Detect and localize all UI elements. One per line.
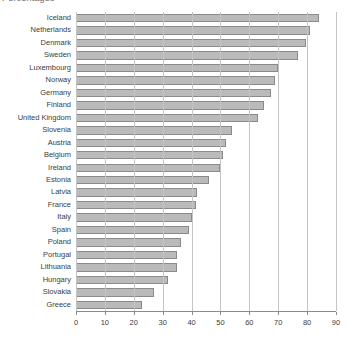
- category-label-denmark: Denmark: [0, 37, 71, 49]
- category-label-luxembourg: Luxembourg: [0, 62, 71, 74]
- category-label-germany: Germany: [0, 87, 71, 99]
- gridline-20: [134, 12, 135, 311]
- category-label-france: France: [0, 199, 71, 211]
- category-label-greece: Greece: [0, 299, 71, 311]
- category-label-norway: Norway: [0, 74, 71, 86]
- category-label-austria: Austria: [0, 137, 71, 149]
- gridline-30: [163, 12, 164, 311]
- bar-united-kingdom: [76, 114, 258, 122]
- x-tick-60: [249, 312, 250, 315]
- x-tick-30: [163, 312, 164, 315]
- gridline-50: [220, 12, 221, 311]
- bar-sweden: [76, 51, 298, 59]
- x-tick-0: [76, 312, 77, 315]
- category-label-lithuania: Lithuania: [0, 261, 71, 273]
- x-tick-label-30: 30: [153, 318, 173, 327]
- gridline-90: [336, 12, 337, 311]
- x-tick-label-10: 10: [95, 318, 115, 327]
- bar-netherlands: [76, 26, 310, 34]
- bar-hungary: [76, 276, 168, 284]
- gridline-70: [278, 12, 279, 311]
- category-label-estonia: Estonia: [0, 174, 71, 186]
- bar-austria: [76, 139, 226, 147]
- category-label-hungary: Hungary: [0, 274, 71, 286]
- chart-subtitle-clipped: Percentages: [2, 0, 55, 3]
- gridline-60: [249, 12, 250, 311]
- gridline-10: [105, 12, 106, 311]
- gridline-0: [76, 12, 77, 311]
- x-tick-90: [336, 312, 337, 315]
- category-label-portugal: Portugal: [0, 249, 71, 261]
- x-axis-line: [76, 311, 336, 312]
- category-label-netherlands: Netherlands: [0, 24, 71, 36]
- bar-slovakia: [76, 288, 154, 296]
- x-tick-label-20: 20: [124, 318, 144, 327]
- category-label-sweden: Sweden: [0, 49, 71, 61]
- bar-latvia: [76, 188, 197, 196]
- category-label-spain: Spain: [0, 224, 71, 236]
- bar-france: [76, 201, 196, 209]
- bar-ireland: [76, 164, 220, 172]
- category-label-ireland: Ireland: [0, 162, 71, 174]
- category-label-slovenia: Slovenia: [0, 124, 71, 136]
- bar-greece: [76, 301, 142, 309]
- x-tick-40: [192, 312, 193, 315]
- bar-belgium: [76, 151, 223, 159]
- category-label-latvia: Latvia: [0, 186, 71, 198]
- x-tick-label-40: 40: [182, 318, 202, 327]
- bar-spain: [76, 226, 189, 234]
- x-tick-label-70: 70: [268, 318, 288, 327]
- x-tick-10: [105, 312, 106, 315]
- category-label-united-kingdom: United Kingdom: [0, 112, 71, 124]
- x-tick-label-50: 50: [210, 318, 230, 327]
- bar-slovenia: [76, 126, 232, 134]
- x-tick-label-80: 80: [297, 318, 317, 327]
- x-tick-80: [307, 312, 308, 315]
- x-tick-20: [134, 312, 135, 315]
- category-label-poland: Poland: [0, 236, 71, 248]
- x-tick-label-60: 60: [239, 318, 259, 327]
- bar-poland: [76, 238, 181, 246]
- category-label-italy: Italy: [0, 211, 71, 223]
- gridline-80: [307, 12, 308, 311]
- bar-iceland: [76, 14, 319, 22]
- bar-estonia: [76, 176, 209, 184]
- gridline-40: [192, 12, 193, 311]
- category-label-belgium: Belgium: [0, 149, 71, 161]
- x-tick-label-90: 90: [326, 318, 346, 327]
- category-label-finland: Finland: [0, 99, 71, 111]
- category-label-slovakia: Slovakia: [0, 286, 71, 298]
- chart-page: Percentages IcelandNetherlandsDenmarkSwe…: [0, 0, 347, 341]
- x-tick-50: [220, 312, 221, 315]
- category-label-iceland: Iceland: [0, 12, 71, 24]
- bar-luxembourg: [76, 64, 278, 72]
- x-tick-label-0: 0: [66, 318, 86, 327]
- bar-norway: [76, 76, 275, 84]
- x-tick-70: [278, 312, 279, 315]
